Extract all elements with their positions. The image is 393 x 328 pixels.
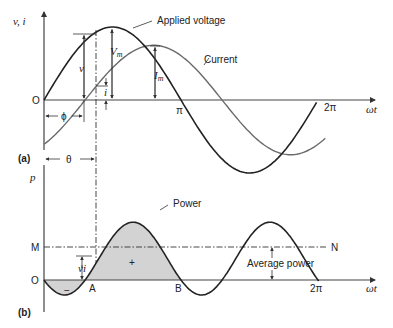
vi-label: vi xyxy=(78,262,86,274)
voltage-leader xyxy=(133,21,152,28)
v-label: v xyxy=(79,62,84,74)
vm-label: Vm xyxy=(110,45,123,59)
positive-sign: + xyxy=(129,257,135,268)
x-axis-label-b: ωt xyxy=(366,282,378,294)
negative-sign: − xyxy=(64,285,70,296)
tick-2pi-label-a: 2π xyxy=(324,102,337,113)
p-axis-label: p xyxy=(29,171,36,183)
average-power-label: Average power xyxy=(247,258,315,269)
mean-end-label: N xyxy=(331,242,338,253)
phi-label: ϕ xyxy=(61,111,67,122)
panel-b: p M N O A B 2π ωt Power Average power vi… xyxy=(18,165,378,318)
point-a-label: A xyxy=(89,283,96,294)
im-label: Im xyxy=(153,69,164,83)
origin-b-label: O xyxy=(31,275,39,286)
voltage-label: Applied voltage xyxy=(157,15,226,26)
tick-pi-label: π xyxy=(176,105,183,116)
ac-power-diagram: v, i O π 2π ωt Applied voltage Current V… xyxy=(0,0,393,328)
panel-a: v, i O π 2π ωt Applied voltage Current V… xyxy=(13,12,378,173)
power-label: Power xyxy=(173,198,202,209)
i-label: i xyxy=(104,86,107,98)
panel-b-tag: (b) xyxy=(18,307,31,318)
theta-label: θ xyxy=(66,154,72,165)
va-y-axis-label: v, i xyxy=(13,15,26,27)
power-leader xyxy=(160,205,168,210)
panel-a-tag: (a) xyxy=(18,153,30,164)
tick-2pi-label-b: 2π xyxy=(310,283,323,294)
origin-a-label: O xyxy=(32,95,40,106)
x-axis-label-a: ωt xyxy=(366,103,378,115)
current-label: Current xyxy=(204,54,238,65)
point-b-label: B xyxy=(175,283,182,294)
mean-label: M xyxy=(31,242,39,253)
